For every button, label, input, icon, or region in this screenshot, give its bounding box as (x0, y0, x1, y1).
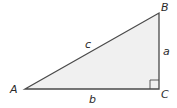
vertex-label-c: C (161, 88, 169, 101)
triangle-shape (25, 13, 159, 89)
vertex-label-b: B (161, 1, 169, 14)
vertex-label-a: A (9, 83, 18, 96)
triangle-diagram: A B C c a b (0, 0, 177, 108)
side-label-b: b (89, 93, 96, 106)
side-label-a: a (163, 45, 170, 58)
side-label-c: c (85, 38, 91, 51)
